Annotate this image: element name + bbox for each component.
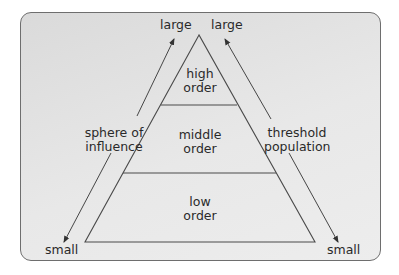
sphere-label-line2: influence (80, 140, 148, 154)
level-low-order: low order (178, 195, 222, 223)
threshold-label-line1: threshold (264, 126, 330, 140)
level-low-line2: order (178, 209, 222, 223)
level-middle-line2: order (172, 142, 228, 156)
level-middle-order: middle order (172, 128, 228, 156)
sphere-arrow-down (64, 153, 111, 242)
level-high-line1: high (179, 67, 221, 81)
sphere-of-influence-label: sphere of influence (80, 126, 148, 154)
level-high-line2: order (179, 81, 221, 95)
level-low-line1: low (178, 195, 222, 209)
threshold-top-label: large (211, 18, 243, 32)
level-middle-line1: middle (172, 128, 228, 142)
threshold-arrow-up (225, 39, 271, 119)
threshold-label-line2: population (264, 140, 330, 154)
sphere-top-label: large (160, 18, 192, 32)
threshold-arrow-down (289, 153, 338, 242)
sphere-bottom-label: small (45, 243, 78, 257)
level-high-order: high order (179, 67, 221, 95)
threshold-bottom-label: small (327, 243, 360, 257)
threshold-population-label: threshold population (264, 126, 330, 154)
sphere-label-line1: sphere of (80, 126, 148, 140)
